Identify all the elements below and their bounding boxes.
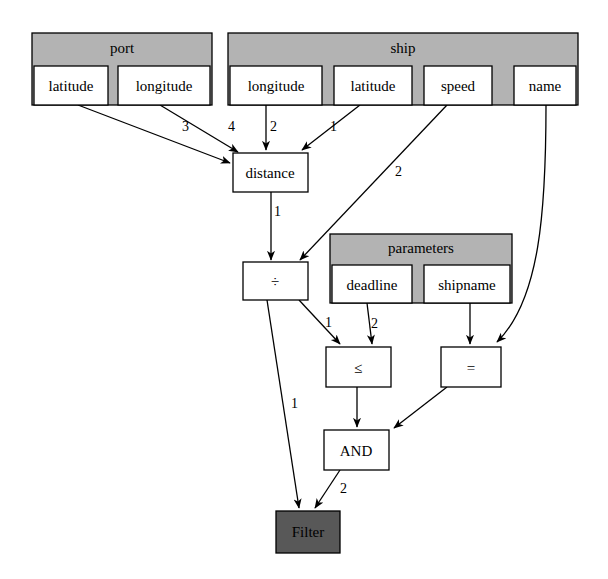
operator-and-label: AND xyxy=(340,443,373,459)
edge-label-and-filter: 2 xyxy=(340,481,347,496)
operator-leq-label: ≤ xyxy=(354,360,362,376)
edge-label-ship-latitude-distance: 1 xyxy=(330,119,337,134)
column-ship-name-label: name xyxy=(529,78,562,94)
edge-label-deadline-leq: 2 xyxy=(371,316,378,331)
table-ship-title: ship xyxy=(390,40,415,56)
edge-layer xyxy=(78,105,546,508)
diagram-canvas: 3 4 2 1 1 2 1 2 1 2 port latitude longit… xyxy=(0,0,608,579)
table-port[interactable]: port latitude longitude xyxy=(32,33,212,105)
edge-label-divide-filter: 1 xyxy=(291,396,298,411)
table-ship[interactable]: ship longitude latitude speed name xyxy=(228,33,578,105)
sink-filter-label: Filter xyxy=(292,524,325,540)
operator-eq-label: = xyxy=(467,360,475,376)
column-ship-speed-label: speed xyxy=(441,78,476,94)
table-parameters-title: parameters xyxy=(388,240,454,256)
column-shipname-label: shipname xyxy=(438,277,496,293)
table-port-title: port xyxy=(110,40,135,56)
edge-ship-name-eq xyxy=(497,105,546,342)
operator-distance-label: distance xyxy=(245,165,294,181)
column-port-latitude-label: latitude xyxy=(49,78,94,94)
operator-graph: 3 4 2 1 1 2 1 2 1 2 port latitude longit… xyxy=(0,0,608,579)
operator-layer[interactable]: distance ÷ ≤ = AND xyxy=(233,153,501,470)
column-ship-longitude-label: longitude xyxy=(248,78,305,94)
edge-label-port-longitude-distance: 4 xyxy=(228,119,235,134)
edge-label-distance-divide: 1 xyxy=(274,204,281,219)
table-parameters[interactable]: parameters deadline shipname xyxy=(330,234,512,303)
sink-filter[interactable]: Filter xyxy=(276,511,340,553)
edge-eq-and xyxy=(394,387,447,428)
edge-label-ship-speed-divide: 2 xyxy=(395,164,402,179)
edge-and-filter xyxy=(315,470,340,508)
edge-label-port-latitude-distance: 3 xyxy=(182,119,189,134)
edge-divide-leq xyxy=(299,300,340,344)
column-port-longitude-label: longitude xyxy=(136,78,193,94)
column-deadline-label: deadline xyxy=(347,277,398,293)
edge-label-ship-longitude-distance: 2 xyxy=(270,119,277,134)
edge-port-longitude-distance xyxy=(160,105,238,152)
operator-divide-label: ÷ xyxy=(271,274,279,290)
edge-label-divide-leq: 1 xyxy=(325,315,332,330)
column-ship-latitude-label: latitude xyxy=(351,78,396,94)
